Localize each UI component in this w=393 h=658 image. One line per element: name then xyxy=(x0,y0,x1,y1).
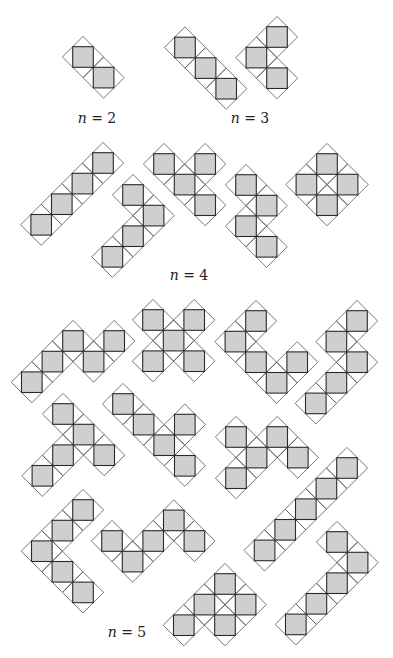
cell-square xyxy=(73,424,94,445)
label-n3: n = 3 xyxy=(231,110,270,126)
cell-square xyxy=(226,427,247,448)
polyomino-n3-1 xyxy=(164,27,246,109)
cell-square xyxy=(236,175,257,196)
polyomino-n4-3 xyxy=(21,142,124,245)
cell-square xyxy=(225,331,246,352)
label-variable: n xyxy=(170,267,179,283)
cell-square xyxy=(104,331,125,352)
cell-square xyxy=(337,174,358,195)
cell-square xyxy=(286,614,307,635)
polyomino-n5-17 xyxy=(21,489,103,613)
label-value: = 4 xyxy=(179,267,209,283)
cell-square xyxy=(52,520,73,541)
cell-square xyxy=(347,552,368,573)
label-value: = 5 xyxy=(117,624,147,640)
cell-square xyxy=(184,310,205,331)
polyomino-n5-18 xyxy=(91,500,215,582)
polyomino-diagram xyxy=(0,0,393,658)
cell-square xyxy=(174,615,195,636)
cell-square xyxy=(175,456,196,477)
cell-square xyxy=(94,445,115,466)
polyomino-n5-10 xyxy=(215,300,318,403)
cell-square xyxy=(236,216,257,237)
cell-square xyxy=(195,195,216,216)
cell-square xyxy=(175,414,196,435)
cell-square xyxy=(154,435,175,456)
cell-square xyxy=(174,174,195,195)
cell-square xyxy=(246,311,267,332)
cell-square xyxy=(73,47,94,68)
cell-square xyxy=(246,352,267,373)
cell-square xyxy=(254,540,275,561)
cell-square xyxy=(267,427,288,448)
cell-square xyxy=(184,531,205,552)
cell-square xyxy=(246,447,267,468)
label-n4: n = 4 xyxy=(170,267,209,283)
cell-square xyxy=(215,615,236,636)
cell-square xyxy=(72,173,93,194)
cell-square xyxy=(195,154,216,175)
cell-square xyxy=(123,185,144,206)
cell-square xyxy=(93,153,114,174)
cell-square xyxy=(133,414,154,435)
cell-square xyxy=(63,331,84,352)
cell-square xyxy=(246,47,267,68)
cell-square xyxy=(31,215,52,236)
cell-square xyxy=(337,458,358,479)
cell-square xyxy=(83,351,104,372)
cell-square xyxy=(175,37,196,58)
cell-square xyxy=(194,594,215,615)
cell-square xyxy=(154,154,175,175)
polyomino-n4-4 xyxy=(92,174,174,277)
cell-square xyxy=(32,541,53,562)
cell-square xyxy=(93,67,114,88)
cell-square xyxy=(184,351,205,372)
cell-square xyxy=(52,194,73,215)
cell-square xyxy=(53,445,74,466)
polyomino-n2-0 xyxy=(62,36,124,98)
cell-square xyxy=(216,78,237,99)
cell-square xyxy=(102,531,123,552)
cell-square xyxy=(326,331,347,352)
cell-square xyxy=(317,195,338,216)
cell-square xyxy=(327,532,348,553)
cell-square xyxy=(52,562,73,583)
cell-square xyxy=(226,468,247,489)
cell-square xyxy=(122,551,143,572)
cell-square xyxy=(267,68,288,89)
cell-square xyxy=(143,531,164,552)
cell-square xyxy=(317,154,338,175)
cell-square xyxy=(267,27,288,48)
cell-square xyxy=(32,466,53,487)
cell-square xyxy=(42,351,63,372)
label-variable: n xyxy=(108,624,117,640)
cell-square xyxy=(235,594,256,615)
cell-square xyxy=(143,205,164,226)
label-variable: n xyxy=(231,110,240,126)
label-variable: n xyxy=(78,110,87,126)
cell-square xyxy=(288,447,309,468)
cell-square xyxy=(73,500,94,521)
cell-square xyxy=(163,330,184,351)
label-value: = 3 xyxy=(240,110,270,126)
cell-square xyxy=(256,237,277,258)
polyomino-n5-19 xyxy=(163,563,266,645)
cell-square xyxy=(164,510,185,531)
cell-square xyxy=(53,404,74,425)
cell-square xyxy=(296,174,317,195)
cell-square xyxy=(102,247,123,268)
cell-square xyxy=(275,520,296,541)
cell-square xyxy=(113,394,134,415)
cell-square xyxy=(287,352,308,373)
polyomino-n5-9 xyxy=(132,299,214,381)
cell-square xyxy=(296,499,317,520)
cell-square xyxy=(256,195,277,216)
cell-square xyxy=(266,373,287,394)
label-n5: n = 5 xyxy=(108,624,147,640)
cell-square xyxy=(123,226,144,247)
cell-square xyxy=(73,582,94,603)
cell-square xyxy=(327,573,348,594)
cell-square xyxy=(306,393,327,414)
cell-square xyxy=(347,311,368,332)
label-n2: n = 2 xyxy=(78,110,117,126)
